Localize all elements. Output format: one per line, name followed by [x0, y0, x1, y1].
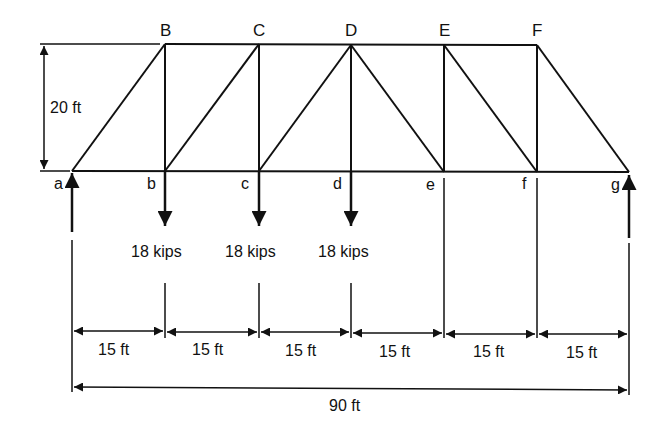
member-Ef [444, 45, 537, 172]
member-Fg [537, 45, 629, 172]
panel-label-3: 15 ft [285, 343, 316, 359]
panel-label-5: 15 ft [473, 344, 504, 360]
panel-label-6: 15 ft [566, 345, 597, 361]
node-label-D: D [345, 22, 357, 39]
panel-label-4: 15 ft [379, 344, 410, 360]
node-label-d: d [333, 176, 342, 192]
node-label-e: e [426, 177, 435, 193]
node-label-F: F [532, 22, 542, 39]
load-label-d: 18 kips [318, 244, 369, 260]
node-label-f: f [522, 176, 526, 192]
top-chord [165, 44, 537, 45]
node-label-b: b [147, 176, 156, 192]
member-bC [165, 44, 259, 171]
node-label-c: c [241, 176, 249, 192]
span-dim-line [74, 387, 627, 390]
load-label-b: 18 kips [131, 244, 182, 260]
panel-label-1: 15 ft [98, 342, 129, 358]
member-cD [259, 45, 351, 171]
panel-label-2: 15 ft [192, 342, 223, 358]
span-label: 90 ft [329, 398, 360, 414]
truss-diagram [0, 0, 665, 439]
node-label-g: g [611, 177, 620, 193]
node-label-B: B [160, 22, 171, 39]
node-label-E: E [439, 22, 450, 39]
load-label-c: 18 kips [225, 244, 276, 260]
height-label: 20 ft [50, 100, 81, 116]
bottom-chord [72, 171, 629, 172]
node-label-a: a [54, 176, 63, 192]
node-label-C: C [253, 22, 265, 39]
member-aB [72, 44, 165, 171]
member-De [351, 45, 444, 172]
